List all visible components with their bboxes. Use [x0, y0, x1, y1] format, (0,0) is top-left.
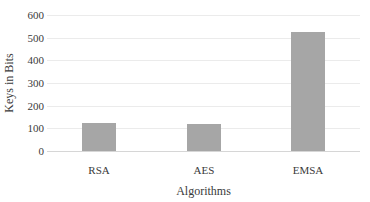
bar-emsa	[291, 32, 325, 151]
y-tick-label: 600	[10, 10, 44, 21]
y-tick-label: 200	[10, 101, 44, 112]
y-tick-label: 0	[10, 146, 44, 157]
y-tick-label: 300	[10, 78, 44, 89]
x-axis-title: Algorithms	[144, 184, 264, 199]
category-label-rsa: RSA	[59, 164, 139, 176]
y-tick-label: 400	[10, 55, 44, 66]
bar-chart: Keys in Bits Algorithms 0100200300400500…	[0, 0, 370, 202]
gridline	[47, 15, 360, 16]
bar-aes	[187, 124, 221, 151]
y-tick-label: 100	[10, 123, 44, 134]
category-label-aes: AES	[164, 164, 244, 176]
y-tick-label: 500	[10, 33, 44, 44]
category-label-emsa: EMSA	[268, 164, 348, 176]
x-axis-line	[47, 151, 360, 152]
bar-rsa	[82, 123, 116, 151]
